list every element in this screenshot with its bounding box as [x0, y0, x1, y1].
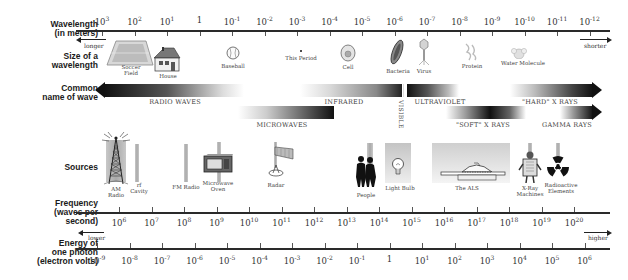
house-label: House: [159, 73, 177, 79]
label-common-name: Common name of wave: [0, 84, 98, 102]
lower-arrow-head: [78, 230, 83, 236]
label-line: name of wave: [0, 93, 98, 102]
axis-tick: [379, 207, 380, 212]
axis-tick-label: 10-6: [386, 15, 403, 27]
shorter-arrow: [580, 39, 608, 40]
axis-tick-label: 10-8: [121, 254, 138, 266]
xray-machines-label: X-Ray Machines: [517, 185, 544, 197]
axis-tick-label: 104: [512, 254, 527, 266]
gamma-rays-arrowhead: [592, 104, 602, 120]
axis-tick: [249, 207, 250, 212]
axis-tick: [347, 207, 348, 212]
axis-tick: [492, 31, 493, 36]
radioactive-elements-label: Radioactive Elements: [545, 182, 578, 194]
lower-label: lower: [88, 234, 105, 241]
label-size: Size of a wavelength: [0, 52, 98, 70]
axis-tick-label: 1019: [532, 216, 550, 228]
axis-tick-label: 10-5: [219, 254, 236, 266]
axis-tick: [542, 207, 543, 212]
radio-waves-band: [104, 84, 244, 97]
axis-tick-label: 10-9: [484, 15, 501, 27]
axis-tick-label: 1: [197, 15, 202, 25]
axis-tick-label: 10-12: [579, 15, 600, 27]
am-radio-tower-icon: [100, 130, 132, 186]
microwave-oven-label: Microwave Oven: [203, 180, 234, 192]
fm-radio-beam: [184, 144, 188, 182]
axis-tick: [167, 31, 168, 36]
axis-tick: [200, 31, 201, 36]
axis-tick: [455, 243, 456, 248]
bacteria-icon: [389, 38, 405, 66]
axis-tick: [282, 207, 283, 212]
visible-label: VISIBLE: [398, 100, 405, 129]
axis-tick-label: 10-1: [224, 15, 241, 27]
axis-tick-label: 1018: [500, 216, 518, 228]
soccer-field-icon: [106, 40, 154, 66]
label-line: Elements: [545, 188, 578, 194]
axis-tick-label: 1014: [370, 216, 388, 228]
axis-tick: [119, 207, 120, 212]
axis-tick: [325, 243, 326, 248]
axis-tick: [557, 31, 558, 36]
axis-tick: [412, 207, 413, 212]
higher-label: higher: [588, 234, 608, 241]
axis-tick-label: 1016: [435, 216, 453, 228]
lower-arrow: [82, 232, 104, 233]
axis-tick: [184, 207, 185, 212]
cell-icon: [340, 44, 356, 62]
wavelength-axis: [76, 30, 610, 32]
ultraviolet-band: [407, 84, 459, 97]
axis-tick-label: 108: [177, 216, 192, 228]
axis-tick-label: 101: [160, 15, 175, 27]
microwaves-label: MICROWAVES: [256, 121, 307, 129]
hard-xrays-band: [510, 84, 593, 97]
axis-tick-label: 10-2: [316, 254, 333, 266]
label-line: Radio: [108, 192, 124, 198]
axis-tick-label: 10-7: [154, 254, 171, 266]
label-line: (electron volts): [0, 257, 98, 266]
axis-tick-label: 1017: [467, 216, 485, 228]
axis-tick: [460, 31, 461, 36]
axis-tick: [227, 243, 228, 248]
rf-cavity-beam: [135, 144, 139, 182]
protein-label: Protein: [462, 63, 482, 69]
gamma-rays-band: [560, 106, 593, 119]
axis-tick-label: 10-1: [349, 254, 366, 266]
label-line: wavelength: [0, 61, 98, 70]
infrared-band: [300, 84, 402, 97]
label-line: Machines: [517, 191, 544, 197]
axis-tick-label: 1020: [565, 216, 583, 228]
axis-tick: [102, 31, 103, 36]
axis-tick: [427, 31, 428, 36]
radar-dish-icon: [267, 143, 295, 179]
axis-tick: [195, 243, 196, 248]
axis-tick-label: 10-8: [451, 15, 468, 27]
axis-tick-label: 10-11: [547, 15, 568, 27]
axis-tick: [152, 207, 153, 212]
axis-tick-label: 109: [209, 216, 224, 228]
hard-xrays-arrowhead: [592, 82, 602, 98]
axis-tick-label: 10-4: [321, 15, 338, 27]
axis-tick: [422, 243, 423, 248]
frequency-axis: [76, 212, 610, 214]
longer-arrow: [78, 39, 106, 40]
axis-tick-label: 1015: [402, 216, 420, 228]
axis-tick: [260, 243, 261, 248]
microwave-oven-icon: [203, 154, 233, 174]
virus-label: Virus: [417, 68, 432, 74]
als-label: The ALS: [455, 185, 479, 191]
axis-tick-label: 101: [415, 254, 430, 266]
water-molecule-icon: [511, 47, 527, 59]
axis-tick-label: 103: [480, 254, 495, 266]
axis-tick: [444, 207, 445, 212]
higher-arrow: [584, 232, 608, 233]
axis-tick: [217, 207, 218, 212]
microwaves-band: [238, 106, 334, 119]
axis-tick: [97, 243, 98, 248]
label-line: Field: [121, 70, 140, 76]
axis-tick-label: 10-7: [419, 15, 436, 27]
axis-tick: [330, 31, 331, 36]
xray-machine-icon: [518, 150, 542, 184]
radar-label: Radar: [268, 182, 285, 188]
label-wavelength: Wavelength (in meters): [0, 20, 98, 38]
